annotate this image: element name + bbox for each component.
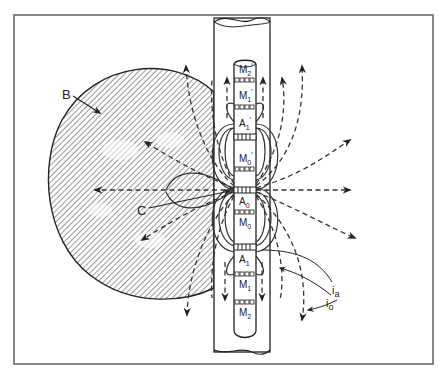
body-b bbox=[48, 69, 214, 300]
label-ia: ia bbox=[332, 284, 339, 299]
electrode-band-a1p bbox=[234, 134, 256, 140]
current-labels: ia io bbox=[262, 250, 339, 312]
label-m2p: M2′ bbox=[239, 61, 253, 77]
label-b: B bbox=[62, 87, 71, 102]
label-m0p: M0′ bbox=[239, 150, 253, 166]
electrode-band-a0 bbox=[234, 187, 256, 193]
electrode-band-a1 bbox=[234, 244, 256, 250]
laterolog-diagram: M2′ M1′ A1′ M0′ A0 M0 A1 M1 M2 B C ia io bbox=[0, 0, 447, 377]
label-c: C bbox=[137, 203, 146, 218]
label-io: io bbox=[326, 297, 333, 312]
label-m1p: M1′ bbox=[239, 87, 253, 103]
